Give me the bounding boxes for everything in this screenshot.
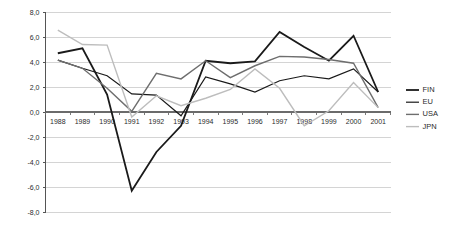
- x-tick-label: 1989: [75, 118, 91, 125]
- legend-label-usa: USA: [423, 109, 438, 118]
- y-tick-label: -4,0: [27, 159, 39, 166]
- y-tick-label: 6,0: [30, 34, 40, 41]
- series-line-usa: [58, 56, 378, 111]
- line-chart: 8,06,04,02,00,0-2,0-4,0-6,0-8,0 19881989…: [0, 0, 449, 229]
- y-tick-label: 2,0: [30, 84, 40, 91]
- y-tick-label: -8,0: [27, 209, 39, 216]
- x-tick-label: 1994: [198, 118, 214, 125]
- x-tick-label: 2001: [370, 118, 386, 125]
- y-tick-label: 8,0: [30, 9, 40, 16]
- chart-canvas: 8,06,04,02,00,0-2,0-4,0-6,0-8,0 19881989…: [0, 0, 449, 229]
- x-tick-label: 1991: [124, 118, 140, 125]
- x-tick-label: 1999: [321, 118, 337, 125]
- y-tick-label: 0,0: [30, 109, 40, 116]
- legend-label-jpn: JPN: [423, 122, 437, 131]
- x-tick-label: 1992: [149, 118, 165, 125]
- legend-label-fin: FIN: [423, 85, 435, 94]
- legend-label-eu: EU: [423, 97, 433, 106]
- x-tick-label: 1995: [223, 118, 239, 125]
- x-axis-tick-labels: 1988198919901991199219931994199519961997…: [50, 118, 386, 125]
- x-tick-label: 2000: [346, 118, 362, 125]
- x-tick-label: 1988: [50, 118, 66, 125]
- legend: FINEUUSAJPN: [406, 85, 438, 131]
- series-lines: [58, 30, 378, 191]
- y-tick-label: -6,0: [27, 184, 39, 191]
- x-tick-label: 1996: [247, 118, 263, 125]
- y-tick-label: -2,0: [27, 134, 39, 141]
- y-tick-label: 4,0: [30, 59, 40, 66]
- x-tick-label: 1997: [272, 118, 288, 125]
- series-line-fin: [58, 32, 378, 191]
- y-axis-tick-labels: 8,06,04,02,00,0-2,0-4,0-6,0-8,0: [27, 9, 39, 216]
